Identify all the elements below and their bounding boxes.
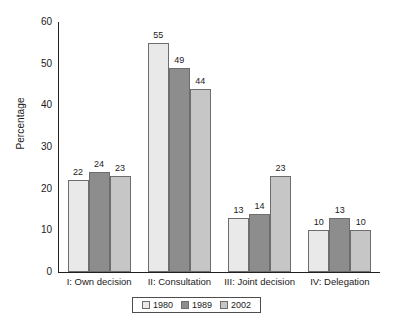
legend-swatch-icon — [220, 301, 228, 309]
bar-value-label: 23 — [266, 164, 295, 173]
bar-value-label: 55 — [144, 31, 173, 40]
legend-item: 1989 — [181, 301, 212, 310]
bar — [190, 89, 211, 272]
y-axis-tick-label: 50 — [0, 59, 52, 69]
y-axis-tick: 10 — [0, 225, 52, 235]
bar — [148, 43, 169, 272]
bar-value-label: 10 — [346, 218, 375, 227]
y-axis-tick-label: 40 — [0, 100, 52, 110]
y-axis-tick: 60 — [0, 17, 52, 27]
y-axis-title: Percentage — [15, 69, 26, 179]
bar — [308, 230, 329, 272]
bar-group: 131423 — [220, 22, 300, 272]
bar — [350, 230, 371, 272]
bar-value-label: 49 — [165, 56, 194, 65]
bar-group: 101310 — [300, 22, 380, 272]
y-axis-tick: 50 — [0, 59, 52, 69]
legend-label: 1980 — [153, 301, 173, 310]
bar-value-label: 13 — [325, 206, 354, 215]
y-axis-tick-label: 60 — [0, 17, 52, 27]
y-axis-tick-label: 20 — [0, 184, 52, 194]
legend-label: 2002 — [231, 301, 251, 310]
y-axis-tick-label: 0 — [0, 267, 52, 277]
bar — [228, 218, 249, 272]
legend-item: 2002 — [220, 301, 251, 310]
bar-value-label: 44 — [186, 77, 215, 86]
bar-group: 222423 — [59, 22, 139, 272]
bar — [270, 176, 291, 272]
y-axis-tick-label: 30 — [0, 142, 52, 152]
legend-label: 1989 — [192, 301, 212, 310]
bar — [89, 172, 110, 272]
y-axis-tick: 30 — [0, 142, 52, 152]
bar-chart: Percentage 0102030405060 222423554944131… — [0, 0, 395, 330]
plot-area: 222423554944131423101310 — [59, 22, 380, 272]
bar — [68, 180, 89, 272]
legend-swatch-icon — [142, 301, 150, 309]
x-axis-category-label: IV: Delegation — [290, 276, 390, 288]
bar — [169, 68, 190, 272]
x-axis-line — [58, 272, 380, 273]
bar — [110, 176, 131, 272]
y-axis-tick: 20 — [0, 184, 52, 194]
y-axis-tick-label: 10 — [0, 225, 52, 235]
bar-value-label: 23 — [106, 164, 135, 173]
bar-group: 554944 — [139, 22, 219, 272]
chart-legend: 198019892002 — [132, 297, 261, 313]
y-axis-tick: 40 — [0, 100, 52, 110]
bar — [249, 214, 270, 272]
legend-item: 1980 — [142, 301, 173, 310]
y-axis-tick: 0 — [0, 267, 52, 277]
legend-swatch-icon — [181, 301, 189, 309]
